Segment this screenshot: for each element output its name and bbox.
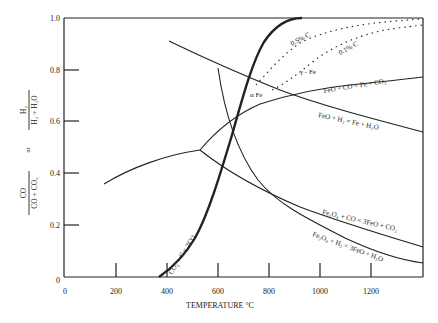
y-tick-label: 0.8 xyxy=(50,66,60,75)
curve-feo-co xyxy=(200,77,423,150)
annotation-feo-co: FeO + CO = Fe + CO₂ xyxy=(323,77,387,95)
y-axis-label: H₂ H₂ + H₂O or CO CO + CO₂ xyxy=(19,90,39,215)
y-label-or: or xyxy=(25,148,31,153)
curve-low-t xyxy=(104,150,200,184)
x-tick-label: 1000 xyxy=(312,287,328,296)
curve-fe3o4-co xyxy=(200,150,423,247)
x-ticks xyxy=(116,263,371,277)
x-tick-label: 200 xyxy=(110,287,122,296)
annotation-boudouard: CO₂ + C = 2CO xyxy=(167,234,198,276)
y-tick-label: 0 xyxy=(56,276,60,285)
plot-frame xyxy=(64,18,423,277)
x-tick-label: 800 xyxy=(263,287,275,296)
annotation-alpha-fe: α Fe xyxy=(250,91,262,99)
annotation-0-1-c: 0.1% C xyxy=(337,40,360,57)
annotations: 0.5% C 0.1% C γ - Fe α Fe FeO + CO = Fe … xyxy=(167,31,399,276)
y-tick-label: 0.2 xyxy=(50,221,60,230)
curve-0-1-c xyxy=(272,25,423,90)
curve-feo-h2 xyxy=(169,41,423,132)
y-label-co: CO xyxy=(19,187,28,198)
y-tick-label: 0.4 xyxy=(50,169,60,178)
y-label-h2-den: H₂ + H₂O xyxy=(30,95,39,125)
chart: 1.0 0.8 0.6 0.4 0.2 0 0 200 400 600 800 … xyxy=(0,0,438,323)
y-tick-label: 0.6 xyxy=(50,117,60,126)
y-tick-label: 1.0 xyxy=(50,14,60,23)
annotation-fe3o4-h2: Fe₃O₄ + H₂ = 3FeO + H₂O xyxy=(311,230,384,263)
curves xyxy=(104,18,423,277)
x-tick-label: 600 xyxy=(212,287,224,296)
x-tick-labels: 0 200 400 600 800 1000 1200 xyxy=(63,287,379,296)
x-axis-label: TEMPERATURE °C xyxy=(186,301,254,310)
annotation-fe3o4-co: Fe₃O₄ + CO = 3FeO + CO₂ xyxy=(322,208,399,233)
curve-boudouard xyxy=(159,18,302,277)
y-label-h2: H₂ xyxy=(19,106,28,114)
annotation-gamma-fe: γ - Fe xyxy=(299,68,316,76)
x-tick-label: 0 xyxy=(63,287,67,296)
x-tick-label: 1200 xyxy=(363,287,379,296)
y-label-co-den: CO + CO₂ xyxy=(30,177,39,209)
y-ticks xyxy=(64,70,79,225)
annotation-0-5-c: 0.5% C xyxy=(289,31,312,48)
x-tick-label: 400 xyxy=(161,287,173,296)
y-tick-labels: 1.0 0.8 0.6 0.4 0.2 0 xyxy=(50,14,60,285)
annotation-feo-h2: FeO + H₂ = Fe + H₂O xyxy=(318,111,380,132)
